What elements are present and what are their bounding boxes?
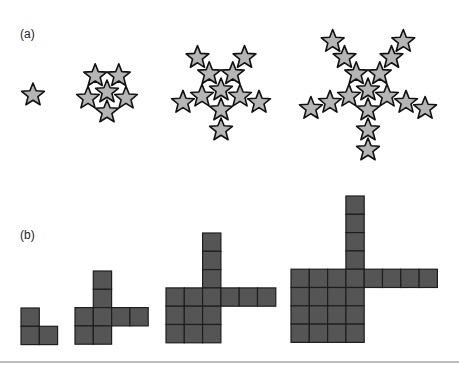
square-cell [364, 269, 382, 287]
square-cell [93, 289, 111, 307]
square-cell [346, 251, 364, 269]
square-cell [21, 308, 39, 326]
star-shape [210, 118, 233, 140]
bottom-divider [0, 361, 459, 363]
square-cell [130, 308, 148, 326]
square-cell [291, 324, 309, 342]
square-cell [203, 233, 221, 251]
square-fractal-stage-3 [166, 233, 276, 343]
square-fractal-stage-1 [21, 308, 58, 345]
square-cell [93, 271, 111, 289]
star-shape [22, 83, 45, 105]
star-shape [96, 100, 119, 122]
square-cell [203, 306, 221, 324]
square-cell [203, 325, 221, 343]
square-cell [166, 288, 184, 306]
square-cell [258, 288, 276, 306]
square-cell [291, 288, 309, 306]
square-cell [346, 306, 364, 324]
square-cell [75, 326, 93, 344]
square-cell [346, 324, 364, 342]
star-shape [357, 118, 380, 140]
star-shape [392, 30, 415, 52]
square-cell [75, 308, 93, 326]
square-cell [346, 288, 364, 306]
star-fractal-stage-4 [300, 30, 437, 160]
square-fractal-stage-4 [291, 196, 437, 342]
square-fractal-stage-2 [75, 271, 148, 344]
star-shape [186, 46, 209, 68]
square-cell [401, 269, 419, 287]
star-shape [210, 98, 233, 120]
star-shape [107, 64, 130, 86]
square-cell [21, 326, 39, 344]
square-cell [203, 251, 221, 269]
star-shape [357, 138, 380, 160]
square-cell [346, 214, 364, 232]
square-cell [328, 288, 346, 306]
square-cell [328, 324, 346, 342]
square-cell [291, 269, 309, 287]
square-cell [203, 270, 221, 288]
square-cell [221, 288, 239, 306]
star-shape [357, 98, 380, 120]
square-cell [383, 269, 401, 287]
square-cell [93, 326, 111, 344]
square-cell [166, 306, 184, 324]
square-cell [93, 308, 111, 326]
square-cell [328, 269, 346, 287]
square-cell [419, 269, 437, 287]
star-shape [233, 46, 256, 68]
square-cell [239, 288, 257, 306]
square-cell [39, 326, 57, 344]
star-shape [84, 64, 107, 86]
star-fractal-stage-2 [77, 64, 138, 122]
star-fractal-stage-3 [172, 46, 271, 140]
square-cell [203, 288, 221, 306]
star-fractal-stage-1 [22, 83, 45, 105]
square-cell [291, 306, 309, 324]
square-cell [166, 325, 184, 343]
square-cell [184, 288, 202, 306]
square-cell [184, 325, 202, 343]
square-cell [346, 269, 364, 287]
square-cell [309, 269, 327, 287]
square-cell [346, 196, 364, 214]
square-cell [309, 288, 327, 306]
fractal-diagram [0, 0, 459, 366]
square-cell [184, 306, 202, 324]
square-cell [309, 306, 327, 324]
star-shape [321, 30, 344, 52]
square-fractal-sequence [21, 196, 437, 345]
star-fractal-sequence [22, 30, 437, 160]
square-cell [112, 308, 130, 326]
square-cell [328, 306, 346, 324]
square-cell [346, 233, 364, 251]
square-cell [309, 324, 327, 342]
